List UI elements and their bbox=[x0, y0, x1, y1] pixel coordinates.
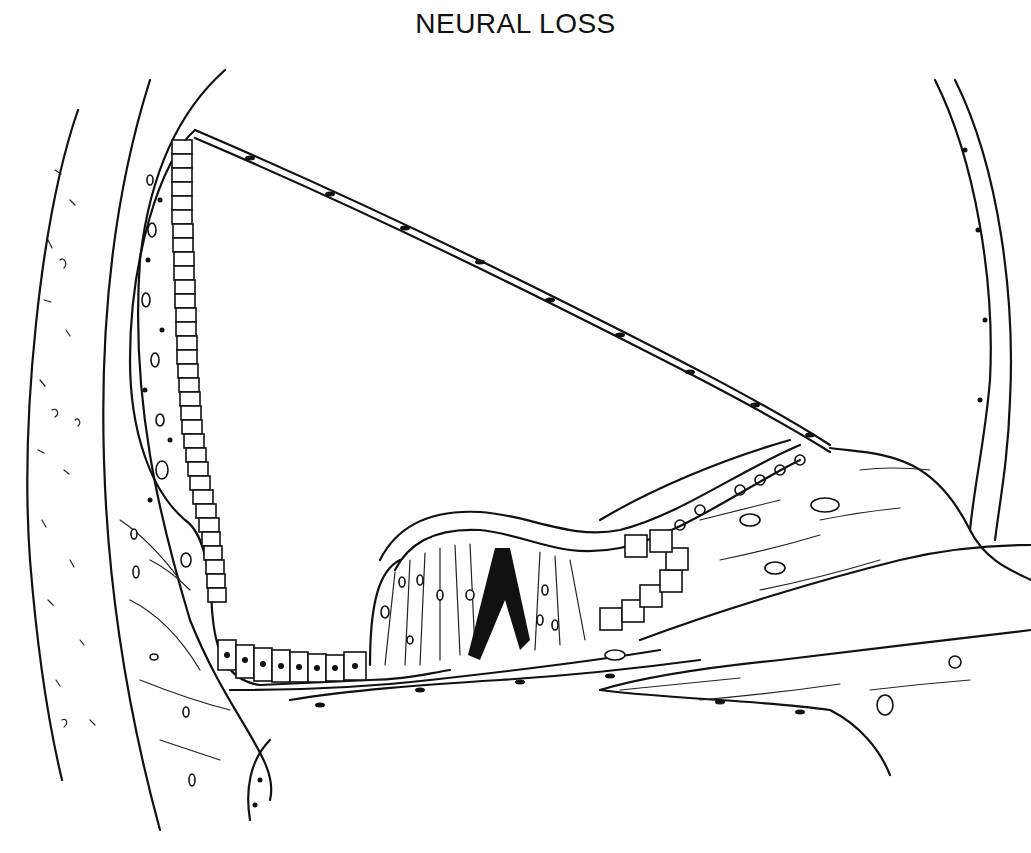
tectorial-membrane bbox=[380, 445, 800, 570]
cochlear-duct-illustration bbox=[0, 0, 1031, 853]
osseous-spiral-lamina bbox=[600, 630, 1031, 715]
basilar-membrane bbox=[212, 610, 890, 820]
left-bony-wall bbox=[27, 80, 160, 830]
organ-of-corti bbox=[370, 530, 688, 665]
reissners-membrane bbox=[195, 130, 830, 452]
right-bony-wall bbox=[935, 80, 1011, 540]
